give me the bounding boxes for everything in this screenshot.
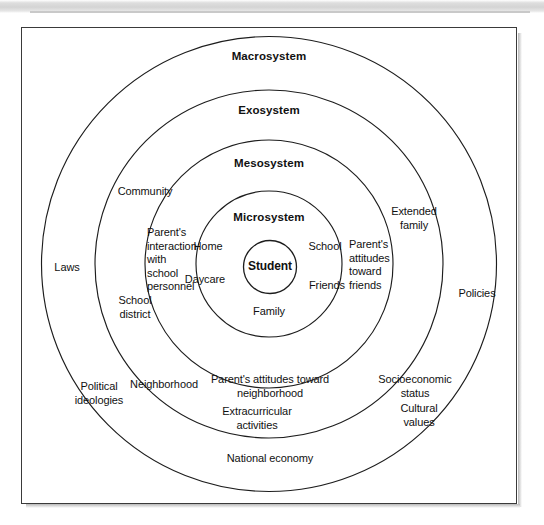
mesosystem-title: Mesosystem [189, 157, 349, 171]
exo-item-community: Community [105, 185, 185, 199]
macro-item-national-economy: National economy [194, 452, 346, 466]
student-core-label: Student [230, 260, 310, 274]
exo-item-socioeconomic-status: Socioeconomic status [364, 373, 466, 400]
microsystem-title: Microsystem [189, 211, 349, 225]
macro-item-laws: Laws [39, 261, 95, 275]
exo-item-extended-family: Extended family [378, 205, 450, 232]
macro-item-political-ideologies: Political ideologies [61, 380, 137, 407]
micro-item-family: Family [234, 305, 304, 319]
meso-item-parent-friends: Parent's attitudes toward friends [349, 238, 421, 292]
exo-item-extracurricular-activities: Extracurricular activities [197, 405, 317, 432]
exosystem-title: Exosystem [189, 104, 349, 118]
exo-item-school-district: School district [104, 294, 166, 321]
micro-item-school: School [297, 240, 353, 254]
micro-item-friends: Friends [297, 279, 357, 293]
macro-item-cultural-values: Cultural values [384, 402, 454, 429]
macro-item-policies: Policies [444, 287, 510, 301]
macrosystem-title: Macrosystem [189, 50, 349, 64]
meso-item-parent-school-personnel: Parent's interaction with school personn… [147, 226, 217, 294]
